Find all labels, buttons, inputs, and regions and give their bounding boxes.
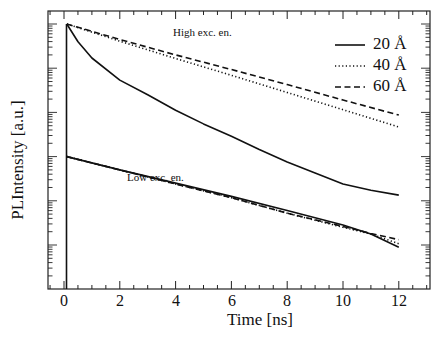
legend bbox=[335, 45, 365, 87]
curve-60A-low bbox=[67, 157, 399, 240]
annotation-low-excitation: Low exc. en. bbox=[127, 171, 184, 183]
legend-label-40: 40 Å bbox=[373, 55, 407, 75]
y-axis-label: PLIntensity [a.u.] bbox=[8, 80, 28, 240]
x-tick-label: 6 bbox=[217, 292, 247, 310]
legend-label-20: 20 Å bbox=[373, 34, 407, 54]
curve-40A-high bbox=[67, 24, 399, 127]
curve-60A-high bbox=[67, 24, 399, 115]
x-tick-label: 12 bbox=[384, 292, 414, 310]
annotation-high-excitation: High exc. en. bbox=[173, 26, 232, 38]
x-tick-label: 8 bbox=[272, 292, 302, 310]
x-tick-label: 0 bbox=[49, 292, 79, 310]
x-axis-label: Time [ns] bbox=[200, 310, 320, 330]
x-tick-label: 10 bbox=[328, 292, 358, 310]
data-curves bbox=[67, 24, 399, 247]
x-axis-ticks bbox=[50, 11, 427, 289]
x-tick-label: 2 bbox=[105, 292, 135, 310]
curve-20A-low bbox=[67, 157, 399, 248]
x-tick-label: 4 bbox=[161, 292, 191, 310]
legend-label-60: 60 Å bbox=[373, 76, 407, 96]
